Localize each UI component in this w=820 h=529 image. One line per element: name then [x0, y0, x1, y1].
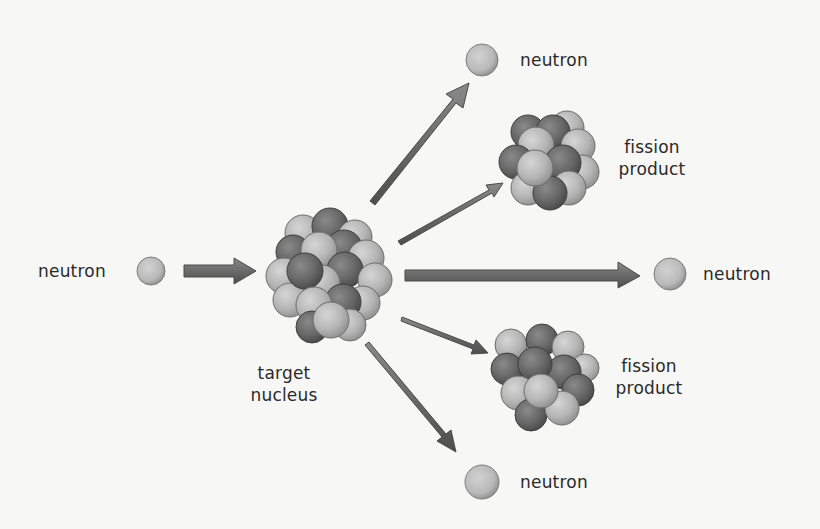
- target-nucleus-label: target nucleus: [246, 362, 322, 406]
- lower-fission-product-cluster: [491, 324, 599, 431]
- arrow-to-top-neutron-icon: [370, 83, 469, 205]
- top-neutron-label: neutron: [520, 49, 588, 71]
- bottom-neutron-ball: [465, 465, 499, 499]
- upper-fission-product-label: fission product: [612, 136, 692, 180]
- incoming-neutron-ball: [137, 257, 165, 285]
- fission-diagram: neutron target nucleus neutron fission p…: [0, 0, 820, 529]
- arrow-to-bottom-neutron-icon: [365, 342, 456, 452]
- lower-fission-product-label-line1: fission: [609, 355, 689, 377]
- bottom-neutron-label: neutron: [520, 471, 588, 493]
- top-neutron-ball: [466, 44, 498, 76]
- target-nucleus-label-line2: nucleus: [246, 384, 322, 406]
- target-nucleus-cluster: [266, 208, 392, 343]
- right-neutron-ball: [654, 258, 686, 290]
- upper-fission-product-cluster: [499, 111, 599, 210]
- arrow-to-upper-fission-product-icon: [398, 183, 503, 245]
- arrow-to-lower-fission-product-icon: [401, 317, 488, 354]
- upper-fission-product-label-line1: fission: [612, 136, 692, 158]
- incoming-arrow-icon: [184, 258, 256, 284]
- right-neutron-label: neutron: [703, 263, 771, 285]
- incoming-neutron-label: neutron: [38, 260, 106, 282]
- upper-fission-product-label-line2: product: [612, 158, 692, 180]
- lower-fission-product-label-line2: product: [609, 377, 689, 399]
- arrow-to-right-neutron-icon: [405, 262, 640, 288]
- diagram-canvas: [0, 0, 820, 529]
- target-nucleus-label-line1: target: [246, 362, 322, 384]
- lower-fission-product-label: fission product: [609, 355, 689, 399]
